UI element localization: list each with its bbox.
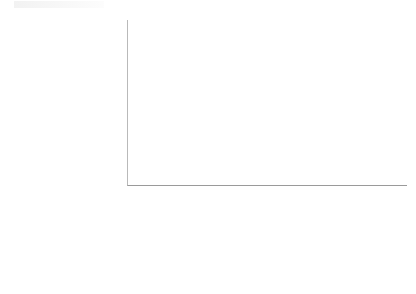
cropped-title-remnant [14,1,104,8]
y-axis-tick-labels [100,10,125,186]
chart-figure [0,0,416,294]
plot-area [127,20,407,186]
stacked-bar-chart [0,10,416,190]
bar-group [128,20,407,185]
